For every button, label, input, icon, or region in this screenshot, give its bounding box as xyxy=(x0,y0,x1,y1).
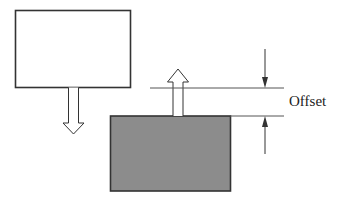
upper-block xyxy=(16,11,131,88)
up-arrow-icon xyxy=(168,69,189,116)
lower-block xyxy=(111,116,231,191)
offset-dimension-arrow-bottom xyxy=(262,116,268,154)
offset-dimension-arrow-top xyxy=(262,49,268,88)
offset-label: Offset xyxy=(289,93,327,109)
down-arrow-icon xyxy=(63,88,84,135)
offset-diagram: Offset xyxy=(0,0,339,198)
